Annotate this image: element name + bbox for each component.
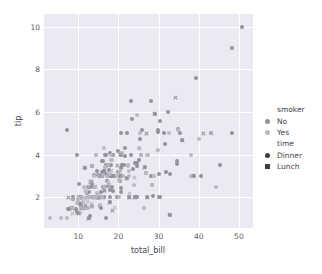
data-point [77, 195, 82, 200]
data-point [129, 99, 133, 103]
legend-item-yes[interactable]: Yes [264, 127, 320, 138]
legend-label: Yes [277, 127, 289, 138]
data-point [80, 205, 85, 210]
data-point [107, 200, 112, 205]
data-point [125, 131, 129, 135]
y-axis-label: tip [14, 116, 23, 126]
data-point [126, 164, 130, 168]
data-point [106, 163, 111, 168]
data-point [119, 190, 123, 194]
data-point [150, 183, 154, 187]
data-point [119, 186, 123, 190]
data-point [106, 180, 110, 184]
data-point [59, 216, 63, 220]
legend-label: Lunch [277, 161, 299, 172]
data-point [123, 154, 127, 158]
data-point [166, 110, 170, 114]
data-point [173, 95, 178, 100]
data-point [86, 216, 91, 221]
data-point [115, 163, 120, 168]
data-point [117, 195, 121, 199]
data-point [124, 176, 129, 181]
y-axis-tick-labels: 246810 [4, 0, 40, 274]
x-tick-label: 40 [194, 232, 204, 241]
plot-area [44, 14, 253, 228]
data-point [137, 158, 141, 162]
gridline-horizontal [44, 27, 253, 28]
data-point [201, 131, 206, 136]
data-point [142, 165, 147, 170]
data-point [103, 153, 107, 157]
data-point [152, 174, 156, 178]
data-point [167, 131, 171, 135]
data-point [75, 153, 79, 157]
data-point [89, 201, 94, 206]
data-point [85, 195, 90, 200]
data-point [138, 137, 142, 141]
legend-item-lunch[interactable]: Lunch [264, 161, 320, 172]
scatter-plot-figure: 246810 1020304050 total_bill tip smokerN… [0, 0, 322, 274]
data-point [82, 165, 87, 170]
data-point [155, 148, 160, 153]
data-point [127, 169, 131, 173]
data-point [158, 119, 162, 123]
legend-item-dinner[interactable]: Dinner [264, 150, 320, 161]
legend-title-time: time [277, 138, 320, 149]
data-point [132, 183, 136, 187]
x-marker-icon [265, 164, 270, 169]
data-point [111, 189, 115, 193]
data-point [48, 216, 52, 220]
data-point [197, 137, 201, 141]
data-point [132, 175, 137, 180]
data-point [139, 153, 143, 157]
legend-item-no[interactable]: No [264, 116, 320, 127]
y-tick-label: 2 [10, 193, 40, 202]
gridline-vertical [239, 14, 240, 228]
x-axis-label: total_bill [131, 246, 165, 255]
legend-label: No [277, 116, 287, 127]
data-point [167, 212, 172, 217]
data-point [86, 184, 91, 189]
legend: smokerNoYestimeDinnerLunch [264, 104, 320, 172]
data-point [135, 164, 139, 168]
data-point [178, 131, 182, 135]
data-point [163, 142, 167, 146]
data-point [111, 173, 116, 178]
data-point [94, 153, 98, 157]
data-point [131, 167, 135, 171]
data-point [230, 46, 234, 50]
data-point [100, 195, 105, 200]
data-point [162, 131, 166, 135]
data-point [149, 99, 153, 103]
data-point [176, 128, 180, 132]
data-point [240, 25, 244, 29]
data-point [70, 211, 75, 216]
data-point [119, 131, 123, 135]
data-point [112, 205, 117, 210]
data-point [127, 191, 132, 196]
x-tick-label: 10 [73, 232, 83, 241]
data-point [145, 195, 150, 200]
gridline-horizontal [44, 112, 253, 113]
y-tick-label: 8 [10, 65, 40, 74]
data-point [117, 177, 122, 182]
data-point [108, 195, 112, 199]
data-point [218, 163, 222, 167]
data-point [76, 211, 81, 216]
data-point [77, 182, 81, 186]
y-tick-label: 10 [10, 22, 40, 31]
data-point [157, 172, 161, 176]
data-point [70, 196, 75, 201]
data-point [144, 171, 148, 175]
data-point [123, 146, 127, 150]
circle-marker-icon [265, 119, 270, 124]
data-point [129, 153, 133, 157]
data-point [142, 206, 146, 210]
x-tick-label: 20 [114, 232, 124, 241]
data-point [130, 117, 134, 121]
data-point [199, 174, 203, 178]
data-point [168, 172, 172, 176]
data-point [189, 153, 193, 157]
x-tick-label: 30 [154, 232, 164, 241]
data-point [144, 131, 149, 136]
